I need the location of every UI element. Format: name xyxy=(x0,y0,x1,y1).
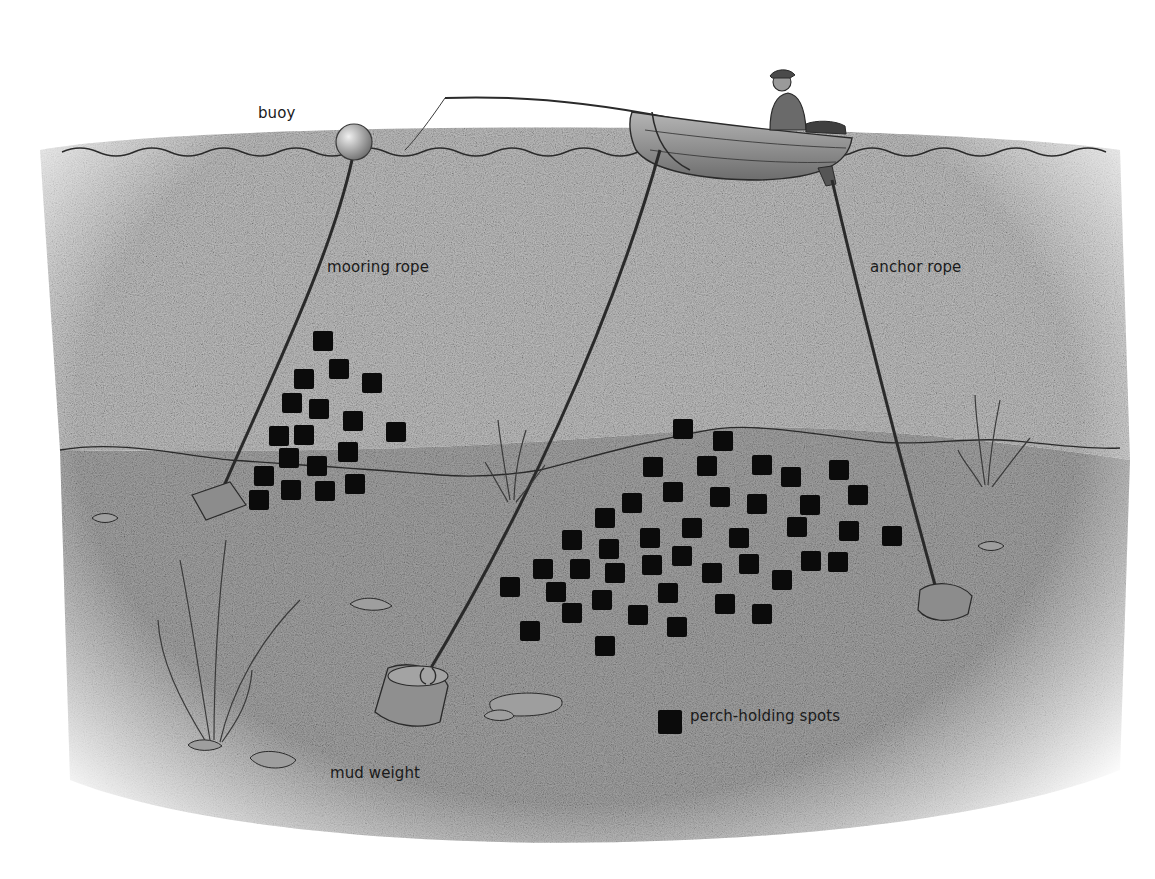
perch-spot xyxy=(500,577,520,597)
perch-spot xyxy=(386,422,406,442)
fishing-diagram: buoy mooring rope anchor rope mud weight… xyxy=(0,0,1155,879)
perch-spot xyxy=(713,431,733,451)
perch-spot xyxy=(710,487,730,507)
perch-spot xyxy=(362,373,382,393)
perch-spot xyxy=(279,448,299,468)
perch-spot xyxy=(643,457,663,477)
perch-spot xyxy=(672,546,692,566)
perch-spot xyxy=(343,411,363,431)
perch-spot xyxy=(599,539,619,559)
perch-spot xyxy=(595,636,615,656)
perch-spot xyxy=(315,481,335,501)
perch-spot xyxy=(329,359,349,379)
perch-spot xyxy=(622,493,642,513)
perch-spot xyxy=(848,485,868,505)
perch-spot xyxy=(254,466,274,486)
mud-weight xyxy=(375,665,448,726)
perch-spot xyxy=(739,554,759,574)
perch-spot xyxy=(715,594,735,614)
perch-spot xyxy=(307,456,327,476)
perch-spot xyxy=(682,518,702,538)
perch-spot xyxy=(772,570,792,590)
perch-spot xyxy=(533,559,553,579)
perch-spot xyxy=(570,559,590,579)
legend-label: perch-holding spots xyxy=(690,707,840,725)
perch-spot xyxy=(628,605,648,625)
perch-spot xyxy=(294,425,314,445)
perch-spot xyxy=(828,552,848,572)
perch-spot xyxy=(781,467,801,487)
perch-spot xyxy=(281,480,301,500)
perch-spot xyxy=(663,482,683,502)
perch-spot xyxy=(752,455,772,475)
perch-spot xyxy=(338,442,358,462)
perch-spot xyxy=(282,393,302,413)
perch-spot xyxy=(697,456,717,476)
anchor-stone xyxy=(918,584,972,621)
perch-spot xyxy=(667,617,687,637)
perch-spot xyxy=(642,555,662,575)
perch-spot xyxy=(520,621,540,641)
perch-spot xyxy=(658,583,678,603)
perch-spot xyxy=(249,490,269,510)
label-mud-weight: mud weight xyxy=(330,764,420,782)
perch-spot xyxy=(605,563,625,583)
perch-spot xyxy=(829,460,849,480)
buoy xyxy=(336,124,372,160)
illustration xyxy=(0,0,1155,879)
perch-spot xyxy=(839,521,859,541)
label-buoy: buoy xyxy=(258,104,295,122)
perch-spot xyxy=(800,495,820,515)
perch-spot xyxy=(729,528,749,548)
perch-spot xyxy=(313,331,333,351)
perch-spot xyxy=(309,399,329,419)
perch-spot xyxy=(702,563,722,583)
perch-spot xyxy=(269,426,289,446)
perch-spot xyxy=(673,419,693,439)
perch-spot xyxy=(640,528,660,548)
legend-square-icon xyxy=(658,710,682,734)
perch-spot xyxy=(595,508,615,528)
perch-spot xyxy=(294,369,314,389)
perch-spot xyxy=(752,604,772,624)
perch-spot xyxy=(562,603,582,623)
perch-spot xyxy=(562,530,582,550)
label-anchor-rope: anchor rope xyxy=(870,258,961,276)
perch-spot xyxy=(747,494,767,514)
label-mooring-rope: mooring rope xyxy=(327,258,429,276)
perch-spot xyxy=(882,526,902,546)
perch-spot xyxy=(787,517,807,537)
perch-spot xyxy=(345,474,365,494)
perch-spot xyxy=(592,590,612,610)
perch-spot xyxy=(546,582,566,602)
perch-spot xyxy=(801,551,821,571)
